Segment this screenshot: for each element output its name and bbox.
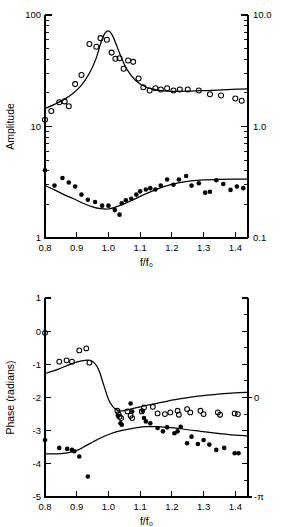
data-point-open <box>235 412 240 417</box>
phase-right-ytick-label: 0 <box>254 392 259 403</box>
data-point-filled <box>128 401 133 406</box>
data-point-filled <box>185 441 190 446</box>
data-point-filled <box>178 424 183 429</box>
amplitude-right-ytick-label: 0.1 <box>253 232 266 243</box>
data-point-filled <box>189 183 194 188</box>
amplitude-right-ytick-label: 10.0 <box>253 9 272 20</box>
data-point-open <box>87 41 92 46</box>
phase-left-ytick-label: -4 <box>33 458 41 469</box>
data-point-open <box>126 58 131 63</box>
data-point-open <box>136 76 141 81</box>
data-point-open <box>201 412 206 417</box>
phase-axes <box>45 298 252 497</box>
phase-xtick-label: 1.0 <box>102 501 115 512</box>
data-point-filled <box>106 203 111 208</box>
data-point-filled <box>171 183 176 188</box>
data-point-filled <box>189 434 194 439</box>
data-point-filled <box>222 446 227 451</box>
data-point-filled <box>235 184 240 189</box>
data-point-filled <box>214 448 219 453</box>
data-point-filled <box>197 181 202 186</box>
data-point-filled <box>175 429 180 434</box>
data-point-filled <box>196 442 201 447</box>
data-point-open <box>49 108 54 113</box>
data-point-open <box>87 360 92 365</box>
data-point-filled <box>93 200 98 205</box>
data-point-filled <box>138 189 143 194</box>
data-point-filled <box>203 190 208 195</box>
amplitude-xtick-label: 0.8 <box>38 242 51 253</box>
data-point-filled <box>86 198 91 203</box>
fit-curve-sigmoid-fit-upper <box>45 360 248 411</box>
data-point-open <box>188 410 193 415</box>
amplitude-xtick-label: 1.0 <box>102 242 115 253</box>
data-point-filled <box>144 187 149 192</box>
data-point-filled <box>112 208 117 213</box>
scientific-figure: 1101000.11.010.00.80.91.01.11.21.31.4 Am… <box>0 0 285 527</box>
data-point-open <box>94 44 99 49</box>
data-point-open <box>162 412 167 417</box>
data-point-open <box>155 411 160 416</box>
data-point-filled <box>66 180 71 185</box>
phase-y-axis-label: Phase (radians) <box>4 360 16 434</box>
data-point-filled <box>43 168 48 173</box>
data-point-filled <box>65 447 70 452</box>
phase-left-ytick-label: 0 <box>36 326 41 337</box>
data-point-open <box>165 86 170 91</box>
data-point-filled <box>165 177 170 182</box>
phase-x-axis-label: f/f₀ <box>140 515 153 527</box>
phase-xtick-label: 1.1 <box>134 501 147 512</box>
data-point-filled <box>214 178 219 183</box>
data-point-filled <box>228 188 233 193</box>
amplitude-tick-labels: 1101000.11.010.00.80.91.01.11.21.31.4 <box>25 9 271 253</box>
data-point-filled <box>161 429 166 434</box>
fit-curve-broad-fit-lower <box>45 179 248 209</box>
data-point-filled <box>153 187 158 192</box>
figure-container: 1101000.11.010.00.80.91.01.11.21.31.4 Am… <box>0 0 285 527</box>
amplitude-data-points <box>43 36 246 217</box>
data-point-open <box>219 93 224 98</box>
amplitude-xtick-label: 1.2 <box>165 242 178 253</box>
phase-xtick-label: 1.2 <box>165 501 178 512</box>
data-point-filled <box>177 177 182 182</box>
amplitude-xtick-label: 1.1 <box>134 242 147 253</box>
data-point-open <box>233 96 238 101</box>
amplitude-axes <box>45 15 248 238</box>
amplitude-xtick-label: 0.9 <box>70 242 83 253</box>
amplitude-left-ytick-label: 100 <box>25 9 41 20</box>
data-point-open <box>239 98 244 103</box>
data-point-filled <box>241 186 246 191</box>
data-point-open <box>84 346 89 351</box>
data-point-open <box>73 82 78 87</box>
data-point-open <box>121 66 126 71</box>
data-point-filled <box>208 189 213 194</box>
data-point-open <box>57 359 62 364</box>
data-point-open <box>77 348 82 353</box>
amplitude-left-ytick-label: 10 <box>30 121 41 132</box>
data-point-filled <box>236 451 241 456</box>
data-point-filled <box>72 449 77 454</box>
data-point-filled <box>73 184 78 189</box>
data-point-filled <box>134 192 139 197</box>
data-point-filled <box>60 176 65 181</box>
data-point-filled <box>86 474 91 479</box>
data-point-filled <box>158 183 163 188</box>
amplitude-fit-curves <box>45 31 248 209</box>
phase-left-ytick-label: -1 <box>33 359 41 370</box>
amplitude-right-ytick-label: 1.0 <box>253 121 266 132</box>
phase-axis-frame <box>45 298 248 497</box>
data-point-filled <box>57 446 62 451</box>
data-point-filled <box>124 198 129 203</box>
data-point-open <box>131 59 136 64</box>
data-point-filled <box>129 196 134 201</box>
data-point-filled <box>52 183 57 188</box>
amplitude-x-axis-label: f/f₀ <box>140 256 153 268</box>
data-point-open <box>66 104 71 109</box>
data-point-filled <box>144 419 149 424</box>
fit-curve-resonance-fit-upper <box>45 31 248 109</box>
amplitude-axis-frame <box>45 15 248 238</box>
data-point-filled <box>130 409 135 414</box>
data-point-filled <box>119 422 124 427</box>
data-point-open <box>64 358 69 363</box>
data-point-filled <box>184 174 189 179</box>
